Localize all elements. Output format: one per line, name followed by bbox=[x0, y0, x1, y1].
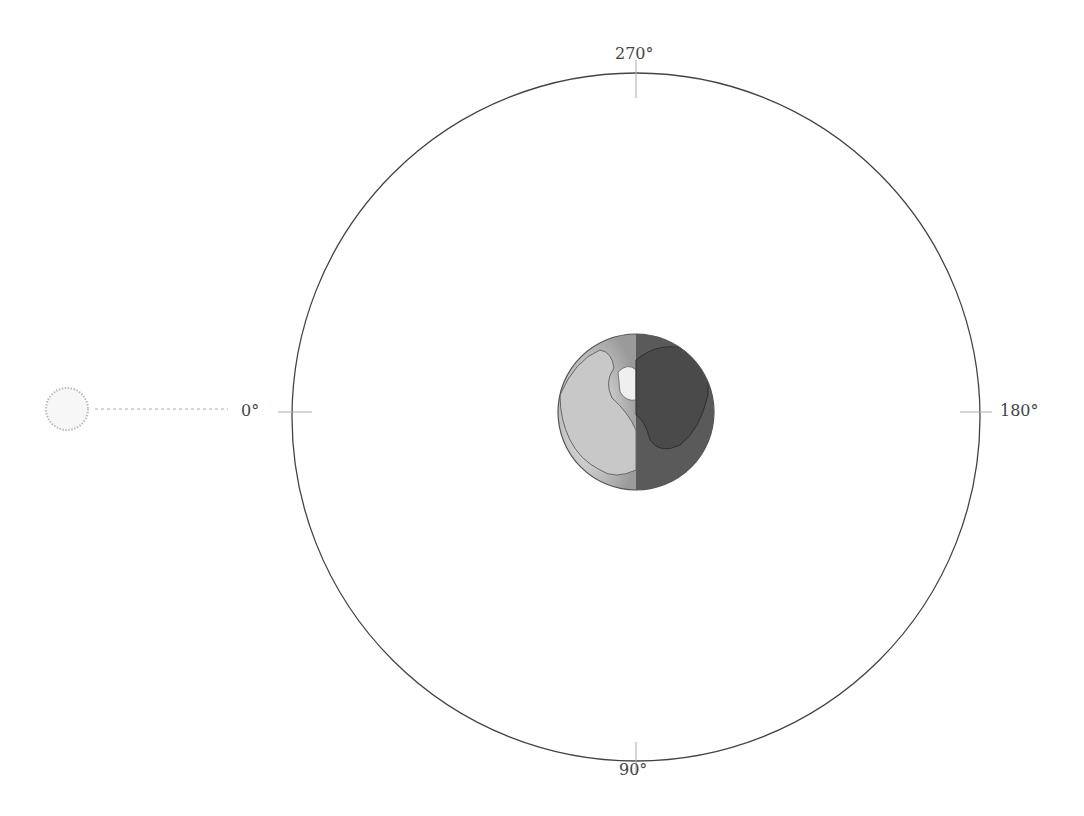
sun-icon bbox=[46, 388, 88, 430]
angle-label-270: 270° bbox=[615, 44, 654, 63]
earth-icon bbox=[558, 334, 714, 490]
angle-label-0: 0° bbox=[241, 401, 259, 420]
orbit-diagram bbox=[0, 0, 1084, 816]
angle-label-180: 180° bbox=[1000, 401, 1039, 420]
angle-label-90: 90° bbox=[619, 760, 647, 779]
